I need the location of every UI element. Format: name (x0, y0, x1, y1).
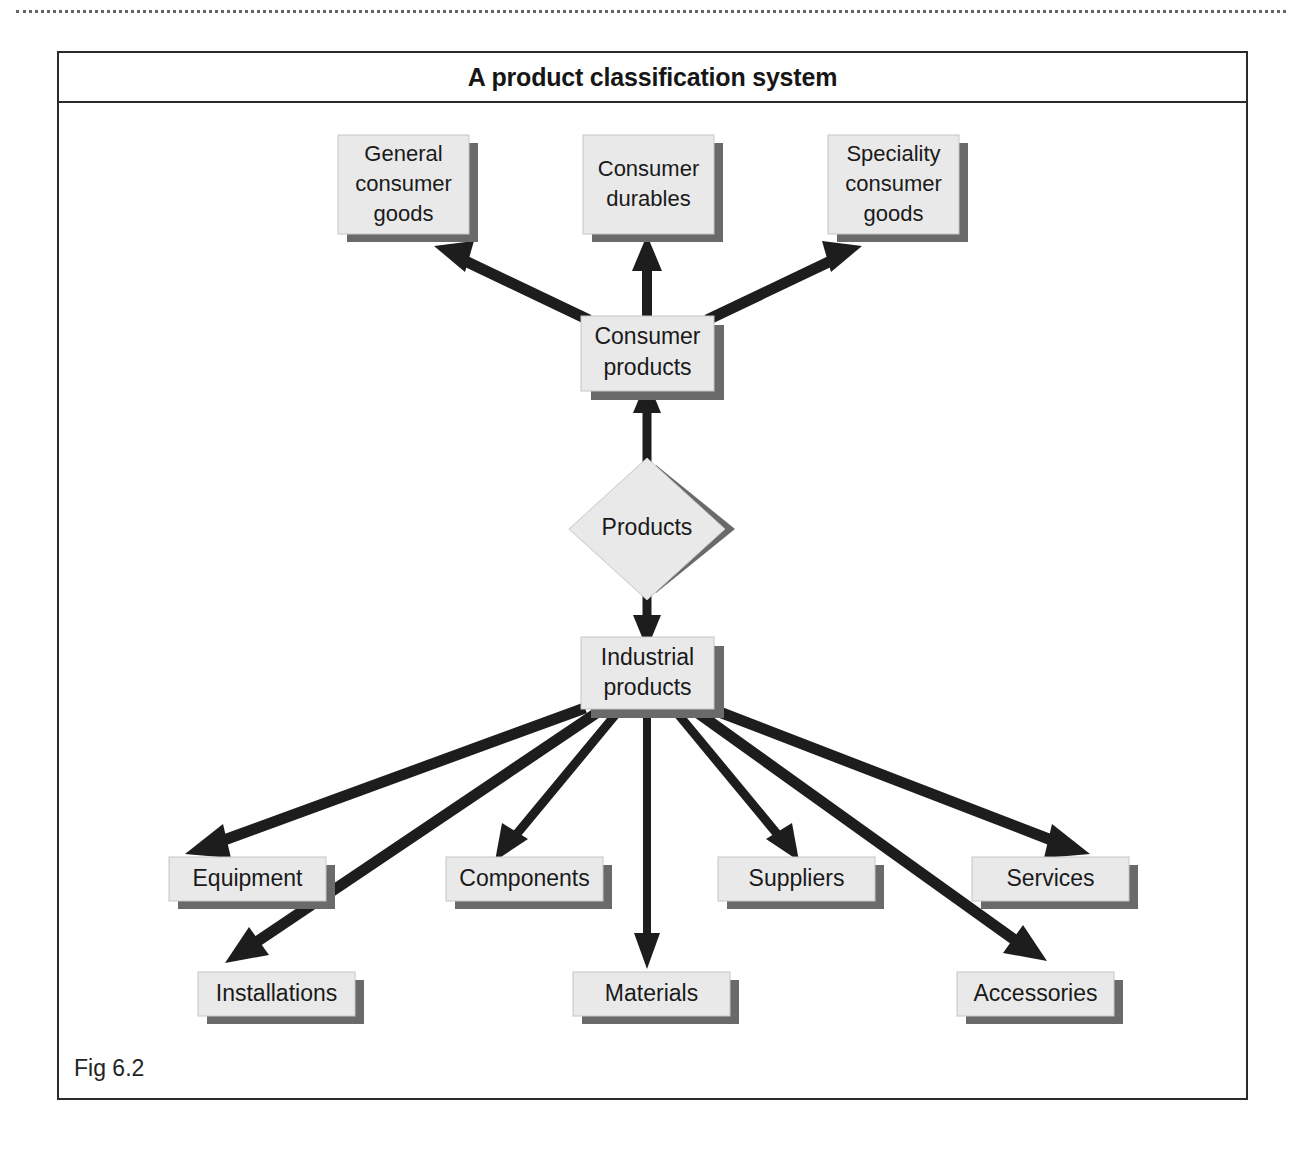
node-consumer-durables-line2: durables (606, 186, 690, 211)
node-consumer-durables[interactable]: Consumer durables (583, 135, 723, 242)
node-speciality-consumer-goods[interactable]: Speciality consumer goods (828, 135, 968, 242)
edge-industrial-to-installations (225, 708, 604, 963)
diagram-canvas: General consumer goods Consumer durables… (59, 53, 1250, 1102)
node-equipment-label: Equipment (193, 865, 304, 891)
page-top-dotted-rule (16, 10, 1286, 16)
node-accessories-label: Accessories (974, 980, 1098, 1006)
node-consumer-products-line2: products (603, 354, 691, 380)
node-general-consumer-goods-line2: consumer (355, 171, 452, 196)
edge-industrial-to-materials (634, 708, 660, 969)
node-general-consumer-goods-line3: goods (374, 201, 434, 226)
edge-industrial-to-accessories (691, 708, 1047, 961)
figure-root: A product classification system (0, 0, 1300, 1152)
node-speciality-consumer-goods-line1: Speciality (846, 141, 940, 166)
node-industrial-products[interactable]: Industrial products (581, 637, 724, 718)
edge-industrial-to-services (709, 708, 1090, 858)
edge-consumer-to-speciality-consumer-goods (707, 241, 862, 320)
node-speciality-consumer-goods-line2: consumer (845, 171, 942, 196)
node-services-label: Services (1006, 865, 1094, 891)
edge-consumer-to-consumer-durables (632, 235, 662, 318)
node-general-consumer-goods[interactable]: General consumer goods (338, 135, 478, 242)
edge-industrial-to-equipment (185, 708, 585, 858)
node-materials[interactable]: Materials (573, 972, 739, 1024)
node-materials-label: Materials (605, 980, 698, 1006)
node-industrial-products-line1: Industrial (601, 644, 694, 670)
node-consumer-products-line1: Consumer (594, 323, 700, 349)
node-products-diamond[interactable]: Products (569, 458, 735, 600)
node-consumer-durables-line1: Consumer (598, 156, 699, 181)
node-speciality-consumer-goods-line3: goods (864, 201, 924, 226)
figure-number-label: Fig 6.2 (74, 1055, 144, 1082)
node-equipment[interactable]: Equipment (169, 857, 335, 909)
node-components[interactable]: Components (446, 857, 612, 909)
node-products-label: Products (602, 514, 693, 540)
node-industrial-products-line2: products (603, 674, 691, 700)
node-suppliers[interactable]: Suppliers (718, 857, 884, 909)
node-components-label: Components (459, 865, 589, 891)
figure-frame: A product classification system (57, 51, 1248, 1100)
node-general-consumer-goods-line1: General (364, 141, 442, 166)
edge-consumer-to-general-consumer-goods (434, 241, 589, 320)
node-services[interactable]: Services (972, 857, 1138, 909)
node-consumer-products[interactable]: Consumer products (581, 316, 724, 400)
node-accessories[interactable]: Accessories (957, 972, 1123, 1024)
node-suppliers-label: Suppliers (749, 865, 845, 891)
node-installations-label: Installations (216, 980, 337, 1006)
node-installations[interactable]: Installations (198, 972, 364, 1024)
